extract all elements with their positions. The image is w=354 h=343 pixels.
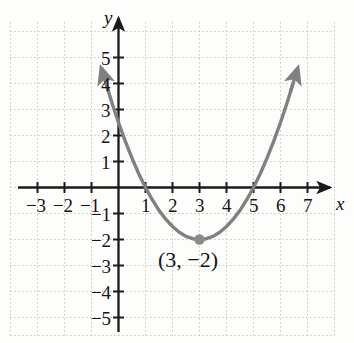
x-tick-label--2: −2 (53, 196, 73, 215)
x-tick-label-7: 7 (303, 196, 312, 215)
y-tick-label-4: 4 (101, 75, 110, 94)
vertex-label: (3, −2) (158, 249, 218, 271)
x-tick-label--3: −3 (26, 196, 46, 215)
vertex-point (194, 234, 204, 244)
y-axis-label: y (104, 8, 112, 27)
x-tick-label-4: 4 (222, 196, 231, 215)
x-tick-label-5: 5 (249, 196, 258, 215)
x-tick-label-1: 1 (141, 196, 150, 215)
y-tick-label-2: 2 (101, 127, 110, 146)
graph-figure: −3 −2 −1 1 2 3 4 5 6 7 5 4 3 2 1 −1 −2 −… (0, 0, 354, 343)
y-tick-label--5: −5 (91, 309, 111, 328)
y-tick-label--4: −4 (91, 283, 111, 302)
x-tick-label-6: 6 (276, 196, 285, 215)
y-tick-label-3: 3 (101, 101, 110, 120)
y-tick-label--1: −1 (91, 205, 111, 224)
coordinate-plane (0, 0, 354, 343)
x-axis-label: x (336, 194, 344, 213)
y-tick-label-5: 5 (101, 49, 110, 68)
x-tick-label-2: 2 (168, 196, 177, 215)
grid-vertical-lines (11, 22, 335, 336)
parabola-right-arrowhead (291, 69, 298, 92)
x-tick-label-3: 3 (195, 196, 204, 215)
y-tick-label--3: −3 (91, 257, 111, 276)
y-tick-label-1: 1 (101, 153, 110, 172)
y-tick-label--2: −2 (91, 231, 111, 250)
